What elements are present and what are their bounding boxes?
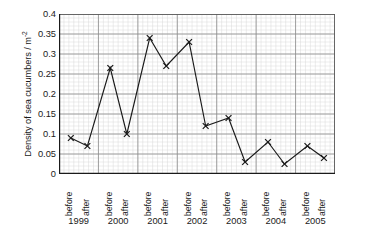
x-axis-year-label: 2000: [98, 216, 138, 226]
x-axis-category-label: after: [199, 174, 209, 216]
plot-area: [59, 14, 335, 174]
x-axis-category-label: after: [278, 174, 288, 216]
y-axis-tick-label: 0.05: [38, 149, 56, 159]
y-axis-tick-label: 0.25: [38, 69, 56, 79]
x-axis-category-label: after: [239, 174, 249, 216]
x-axis-year-label: 2003: [216, 216, 256, 226]
x-axis-category-label: before: [261, 174, 271, 216]
x-axis-category-labels: beforeafterbeforeafterbeforeafterbeforea…: [59, 174, 335, 216]
x-axis-year-labels: 1999200020012002200320042005: [59, 216, 335, 232]
y-axis-tick-label: 0.3: [43, 49, 56, 59]
y-axis-tick-label: 0: [51, 169, 56, 179]
x-axis-category-label: after: [120, 174, 130, 216]
x-axis-year-label: 2002: [177, 216, 217, 226]
x-axis-year-label: 2004: [256, 216, 296, 226]
y-axis-tick-label: 0.35: [38, 29, 56, 39]
x-axis-year-label: 1999: [59, 216, 99, 226]
y-axis-tick-label: 0.2: [43, 89, 56, 99]
data-markers: [68, 35, 327, 167]
x-axis-category-label: before: [301, 174, 311, 216]
chart-figure: Density of sea cucumbers / m-2 00.050.10…: [0, 0, 365, 238]
x-axis-category-label: before: [104, 174, 114, 216]
y-axis-tick-label: 0.1: [43, 129, 56, 139]
y-axis-tick-label: 0.4: [43, 9, 56, 19]
y-axis-tick-labels: 00.050.10.150.20.250.30.350.4: [26, 0, 56, 238]
x-axis-category-label: before: [183, 174, 193, 216]
x-axis-category-label: after: [317, 174, 327, 216]
x-axis-year-label: 2005: [295, 216, 335, 226]
x-axis-category-label: after: [160, 174, 170, 216]
data-line: [71, 38, 324, 164]
x-axis-category-label: after: [81, 174, 91, 216]
x-axis-year-label: 2001: [138, 216, 178, 226]
x-axis-category-label: before: [64, 174, 74, 216]
x-axis-category-label: before: [222, 174, 232, 216]
x-axis-category-label: before: [143, 174, 153, 216]
y-axis-tick-label: 0.15: [38, 109, 56, 119]
plot-svg: [59, 14, 335, 174]
